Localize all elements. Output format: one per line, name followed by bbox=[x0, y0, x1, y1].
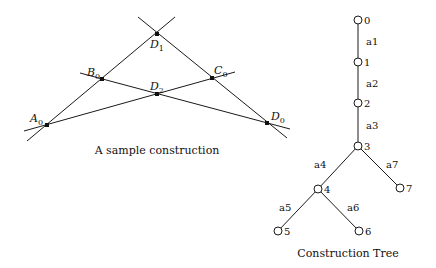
tree-node bbox=[354, 58, 362, 66]
tree-node bbox=[274, 227, 282, 235]
tree-caption: Construction Tree bbox=[297, 247, 398, 260]
tree-node bbox=[355, 227, 363, 235]
tree-node-label: 2 bbox=[364, 98, 370, 109]
point-marker bbox=[155, 32, 159, 36]
construction-line bbox=[24, 72, 235, 131]
point-marker bbox=[265, 121, 269, 125]
tree-edge-label: a6 bbox=[347, 202, 359, 213]
tree-edge-label: a5 bbox=[279, 202, 291, 213]
point-label: A0 bbox=[29, 112, 43, 127]
tree-node bbox=[354, 16, 362, 24]
tree-node bbox=[396, 184, 404, 192]
tree-node-label: 4 bbox=[324, 184, 330, 195]
tree-node bbox=[354, 99, 362, 107]
point-marker bbox=[45, 123, 49, 127]
tree-edge-label: a2 bbox=[366, 78, 378, 89]
tree-edge-label: a7 bbox=[386, 159, 398, 170]
tree-edge-label: a3 bbox=[366, 120, 378, 131]
tree-node bbox=[314, 185, 322, 193]
sample-construction: A0B0C0D0D1D2 bbox=[24, 17, 290, 141]
point-label: B0 bbox=[86, 66, 100, 81]
construction-tree: a1a2a3a4a5a6a701234567 bbox=[274, 15, 412, 237]
tree-edge-label: a4 bbox=[314, 159, 326, 170]
point-label: D2 bbox=[149, 80, 164, 95]
tree-node-label: 5 bbox=[284, 226, 290, 237]
construction-line bbox=[80, 73, 290, 129]
tree-node-label: 0 bbox=[364, 15, 370, 26]
point-label: C0 bbox=[214, 64, 228, 79]
diagram-canvas: A0B0C0D0D1D2 A sample construction a1a2a… bbox=[0, 0, 436, 268]
point-marker bbox=[100, 77, 104, 81]
point-label: D0 bbox=[270, 110, 285, 125]
tree-node-label: 7 bbox=[406, 183, 412, 194]
tree-node-label: 6 bbox=[365, 226, 371, 237]
tree-node-label: 1 bbox=[364, 57, 370, 68]
tree-node bbox=[354, 142, 362, 150]
tree-node-label: 3 bbox=[364, 141, 370, 152]
point-label: D1 bbox=[149, 38, 164, 53]
construction-caption: A sample construction bbox=[94, 144, 220, 157]
tree-edge-label: a1 bbox=[366, 36, 378, 47]
